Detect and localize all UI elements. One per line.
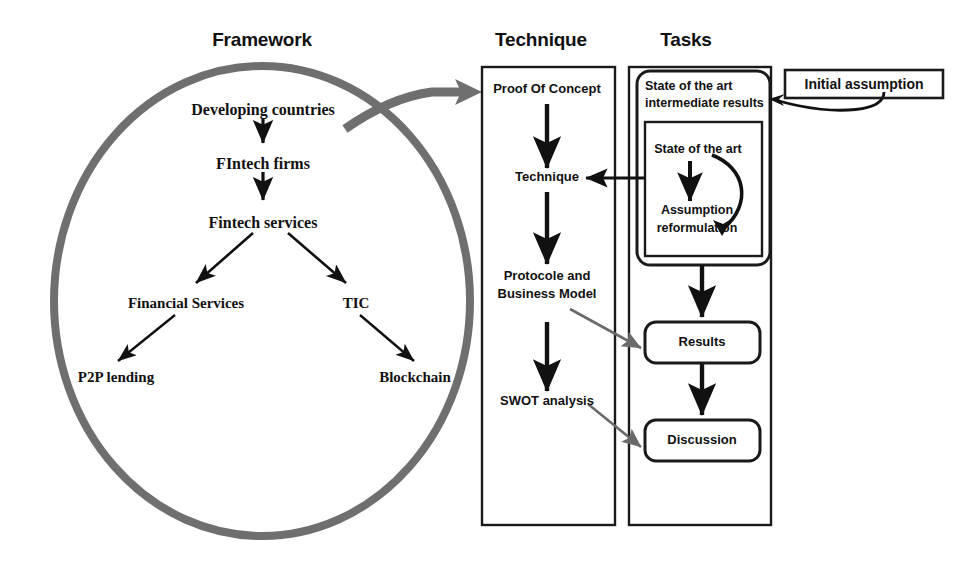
arrow-tic-to-blockchain — [360, 315, 414, 361]
node-financial-services: Financial Services — [128, 295, 244, 312]
technique-step-protocole-line1: Protocole and — [504, 269, 591, 284]
task-assumption-line2: reformulation — [657, 221, 738, 235]
arrow-businessmodel-to-results — [570, 309, 641, 348]
task-state-of-the-art: State of the art — [654, 142, 742, 156]
column-heading-technique: Technique — [495, 29, 587, 51]
technique-step-swot-analysis: SWOT analysis — [500, 394, 594, 409]
node-tic: TIC — [343, 295, 370, 312]
task-discussion: Discussion — [667, 433, 736, 448]
node-p2p-lending: P2P lending — [78, 369, 154, 386]
technique-step-technique: Technique — [515, 170, 579, 185]
task-state-of-art-intermediate-line2: intermediate results — [645, 96, 764, 110]
node-fintech-services: Fintech services — [209, 214, 318, 232]
node-developing-countries: Developing countries — [191, 101, 335, 119]
initial-assumption-label: Initial assumption — [804, 76, 923, 92]
node-blockchain: Blockchain — [379, 369, 451, 386]
technique-step-protocole-line2: Business Model — [498, 287, 597, 302]
diagram-canvas: Framework Technique Tasks Developing cou… — [0, 0, 974, 562]
framework-to-technique-arrow — [345, 79, 482, 129]
arrow-services-to-tic — [288, 233, 346, 283]
technique-step-proof-of-concept: Proof Of Concept — [493, 82, 601, 97]
column-heading-tasks: Tasks — [660, 29, 711, 51]
column-heading-framework: Framework — [212, 29, 312, 51]
node-fintech-firms: FIntech firms — [216, 155, 310, 173]
task-assumption-line1: Assumption — [661, 203, 733, 217]
arrow-services-to-financial — [196, 233, 253, 283]
task-state-of-art-intermediate-line1: State of the art — [645, 79, 733, 93]
task-results: Results — [679, 335, 726, 350]
arrow-financial-to-p2p — [118, 315, 175, 361]
